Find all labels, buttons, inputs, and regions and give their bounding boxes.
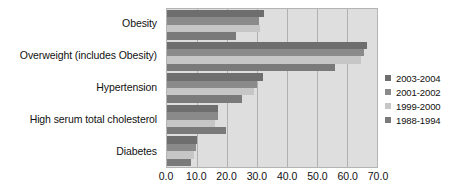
bar-group <box>167 104 377 136</box>
bar <box>167 17 259 24</box>
bar-row <box>167 136 377 143</box>
bar-row <box>167 81 377 88</box>
bar <box>167 49 364 56</box>
bar <box>167 64 335 71</box>
bar-row <box>167 25 377 32</box>
bar-group <box>167 72 377 104</box>
bar <box>167 10 264 17</box>
bar-row <box>167 120 377 127</box>
bar <box>167 42 367 49</box>
bar-row <box>167 56 377 63</box>
category-label: Obesity <box>0 8 162 40</box>
category-label: Overweight (includes Obesity) <box>0 40 162 72</box>
bar <box>167 112 218 119</box>
legend-label: 2001-2002 <box>396 87 441 98</box>
bar-row <box>167 42 377 49</box>
legend-swatch-icon <box>385 117 391 123</box>
x-tick-label: 10.0 <box>186 170 206 182</box>
bar <box>167 95 242 102</box>
category-label: Diabetes <box>0 136 162 168</box>
bar <box>167 81 257 88</box>
bar-chart-figure: ObesityOverweight (includes Obesity)Hype… <box>0 0 467 195</box>
bar-row <box>167 112 377 119</box>
bar-row <box>167 105 377 112</box>
bar <box>167 105 218 112</box>
bar <box>167 73 263 80</box>
bar <box>167 88 254 95</box>
bar-group <box>167 9 377 41</box>
x-tick-label: 30.0 <box>247 170 267 182</box>
legend-label: 2003-2004 <box>396 73 441 84</box>
bar-row <box>167 95 377 102</box>
gridline <box>377 9 378 167</box>
bar-row <box>167 159 377 166</box>
bar <box>167 56 361 63</box>
x-tick-label: 0.0 <box>159 170 174 182</box>
legend-swatch-icon <box>385 89 391 95</box>
bar <box>167 25 260 32</box>
bars-layer <box>167 9 377 167</box>
bar <box>167 151 194 158</box>
legend-item[interactable]: 1999-2000 <box>385 99 465 113</box>
bar <box>167 136 197 143</box>
x-tick-label: 70.0 <box>368 170 388 182</box>
bar <box>167 159 191 166</box>
category-label: High serum total cholesterol <box>0 104 162 136</box>
x-tick-label: 50.0 <box>307 170 327 182</box>
legend-swatch-icon <box>385 75 391 81</box>
value-axis: 0.010.020.030.040.050.060.070.0 <box>166 170 378 186</box>
legend-item[interactable]: 2001-2002 <box>385 85 465 99</box>
legend-swatch-icon <box>385 103 391 109</box>
category-axis: ObesityOverweight (includes Obesity)Hype… <box>0 8 162 168</box>
legend-item[interactable]: 1988-1994 <box>385 113 465 127</box>
category-label: Hypertension <box>0 72 162 104</box>
bar-row <box>167 73 377 80</box>
bar-row <box>167 49 377 56</box>
chart-legend: 2003-20042001-20021999-20001988-1994 <box>385 71 465 127</box>
legend-item[interactable]: 2003-2004 <box>385 71 465 85</box>
legend-label: 1988-1994 <box>396 115 441 126</box>
bar-row <box>167 10 377 17</box>
bar-row <box>167 17 377 24</box>
bar <box>167 144 196 151</box>
x-tick-label: 60.0 <box>337 170 357 182</box>
x-tick-label: 40.0 <box>277 170 297 182</box>
bar <box>167 32 236 39</box>
x-tick-label: 20.0 <box>216 170 236 182</box>
bar-row <box>167 88 377 95</box>
bar-row <box>167 151 377 158</box>
legend-label: 1999-2000 <box>396 101 441 112</box>
bar-row <box>167 144 377 151</box>
bar-row <box>167 127 377 134</box>
plot-area <box>166 8 378 168</box>
bar <box>167 120 215 127</box>
bar-group <box>167 135 377 167</box>
bar-row <box>167 32 377 39</box>
bar-row <box>167 64 377 71</box>
bar-group <box>167 41 377 73</box>
bar <box>167 127 226 134</box>
